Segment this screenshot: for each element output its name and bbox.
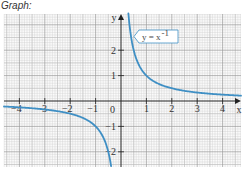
svg-text:2: 2 xyxy=(111,45,116,56)
svg-text:y: y xyxy=(112,12,117,23)
svg-text:2: 2 xyxy=(169,103,174,114)
svg-text:−4: −4 xyxy=(11,103,22,114)
curve-label-callout: y = x-1 xyxy=(134,28,178,44)
grid-minor-lines xyxy=(4,14,241,167)
svg-text:−1: −1 xyxy=(105,121,116,132)
svg-text:−1: −1 xyxy=(87,103,98,114)
svg-text:y = x: y = x xyxy=(142,32,161,42)
svg-text:0: 0 xyxy=(110,104,115,115)
svg-text:4: 4 xyxy=(220,103,225,114)
function-graph: −4−3−2−1123421−1−20xy y = x-1 xyxy=(0,0,247,169)
svg-text:x: x xyxy=(237,104,242,115)
svg-text:1: 1 xyxy=(144,103,149,114)
svg-text:1: 1 xyxy=(111,70,116,81)
svg-text:3: 3 xyxy=(195,103,200,114)
svg-text:-1: -1 xyxy=(162,28,170,38)
